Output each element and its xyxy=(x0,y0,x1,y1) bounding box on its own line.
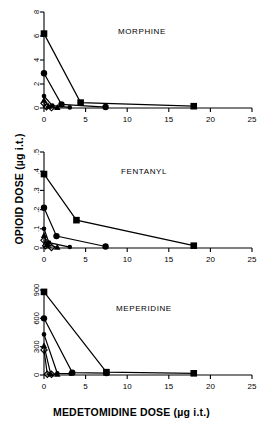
fentanyl-panel-title: FENTANYL xyxy=(121,167,167,176)
x-tick-label: 20 xyxy=(206,115,215,124)
y-tick-label: 0 xyxy=(32,373,41,377)
y-tick-label: 900 xyxy=(32,284,41,297)
meperidine-plot: 05101520250300600900 xyxy=(0,280,263,405)
series-line xyxy=(44,318,106,373)
x-tick-label: 15 xyxy=(164,382,173,391)
y-tick-label: 8 xyxy=(32,10,41,14)
series-line xyxy=(44,208,106,247)
y-axis-label: OPIOID DOSE (µg i.t.) xyxy=(13,124,25,254)
series-line xyxy=(44,34,194,107)
data-point-marker xyxy=(190,370,197,377)
panel-meperidine: 05101520250300600900 MEPERIDINE xyxy=(0,280,263,405)
data-point-marker xyxy=(190,103,197,110)
x-tick-label: 0 xyxy=(42,255,47,264)
data-point-marker xyxy=(67,105,72,110)
x-tick-label: 25 xyxy=(248,255,257,264)
x-tick-label: 0 xyxy=(42,382,47,391)
x-tick-label: 0 xyxy=(42,115,47,124)
y-tick-label: .1 xyxy=(32,226,41,232)
data-point-marker xyxy=(41,70,47,76)
y-tick-label: 0 xyxy=(32,106,41,110)
x-tick-label: 25 xyxy=(248,115,257,124)
data-point-marker xyxy=(53,233,59,239)
x-tick-label: 20 xyxy=(206,382,215,391)
data-point-marker xyxy=(41,171,48,178)
data-point-marker xyxy=(41,204,47,210)
morphine-panel-title: MORPHINE xyxy=(118,27,166,36)
series-line xyxy=(44,346,57,374)
data-point-marker xyxy=(102,104,108,110)
y-tick-label: .5 xyxy=(32,149,41,155)
y-tick-label: 300 xyxy=(32,340,41,353)
x-axis-label: MEDETOMIDINE DOSE (µg i.t.) xyxy=(0,406,263,418)
data-point-marker xyxy=(103,370,109,376)
panel-fentanyl: 05101520250.1.2.3.4.5 FENTANYL xyxy=(0,140,263,280)
y-tick-label: .4 xyxy=(32,168,41,174)
y-tick-label: 600 xyxy=(32,312,41,325)
panel-morphine: 051015202502468 MORPHINE xyxy=(0,0,263,140)
data-point-marker xyxy=(42,332,47,337)
data-point-marker xyxy=(42,227,47,232)
x-tick-label: 15 xyxy=(164,255,173,264)
series-line xyxy=(44,334,71,373)
x-tick-label: 5 xyxy=(83,115,88,124)
x-tick-label: 5 xyxy=(83,382,88,391)
y-tick-label: .2 xyxy=(32,206,41,212)
data-point-marker xyxy=(190,242,197,249)
y-tick-label: 4 xyxy=(32,58,41,62)
y-tick-label: 6 xyxy=(32,34,41,38)
data-point-marker xyxy=(102,243,108,249)
x-tick-label: 10 xyxy=(123,115,132,124)
data-point-marker xyxy=(73,217,80,224)
data-point-marker xyxy=(41,30,48,37)
morphine-plot: 051015202502468 xyxy=(0,0,263,140)
y-tick-label: 0 xyxy=(32,246,41,250)
series-line xyxy=(44,73,106,107)
y-tick-label: .3 xyxy=(32,187,41,193)
data-point-marker xyxy=(41,289,48,296)
data-point-marker xyxy=(68,371,73,376)
series-line xyxy=(44,174,194,246)
fentanyl-plot: 05101520250.1.2.3.4.5 xyxy=(0,140,263,280)
meperidine-panel-title: MEPERIDINE xyxy=(116,304,172,313)
y-tick-label: 2 xyxy=(32,82,41,86)
x-tick-label: 10 xyxy=(123,382,132,391)
x-tick-label: 5 xyxy=(83,255,88,264)
isobologram-figure: 051015202502468 MORPHINE 05101520250.1.2… xyxy=(0,0,263,433)
x-tick-label: 10 xyxy=(123,255,132,264)
x-tick-label: 15 xyxy=(164,115,173,124)
data-point-marker xyxy=(41,315,47,321)
x-tick-label: 25 xyxy=(248,382,257,391)
x-tick-label: 20 xyxy=(206,255,215,264)
data-point-marker xyxy=(67,245,72,250)
